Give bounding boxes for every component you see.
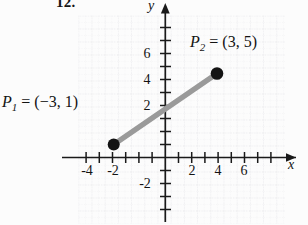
x-axis-label: x	[288, 157, 294, 173]
point-p1-label: P1 = (−3, 1)	[2, 93, 78, 113]
point-p1-marker[interactable]	[108, 139, 120, 151]
p2-symbol: P	[190, 33, 200, 50]
p1-coords: = (−3, 1)	[17, 93, 78, 110]
y-tick-label--2: -2	[134, 176, 156, 192]
p1-symbol: P	[2, 93, 12, 110]
x-tick-label--4: -4	[78, 163, 96, 179]
y-tick-label-2: 2	[138, 98, 156, 114]
x-tick-label--2: -2	[104, 163, 122, 179]
y-axis-label: y	[148, 0, 154, 14]
x-tick-label-6: 6	[235, 163, 253, 179]
y-tick-label-4: 4	[138, 72, 156, 88]
y-tick-label-6: 6	[138, 46, 156, 62]
p2-coords: = (3, 5)	[205, 33, 257, 50]
y-axis-arrow	[161, 3, 170, 14]
point-p2-label: P2 = (3, 5)	[190, 33, 257, 53]
x-tick-label-2: 2	[183, 163, 201, 179]
x-tick-label-4: 4	[209, 163, 227, 179]
point-p2-marker[interactable]	[211, 67, 224, 80]
